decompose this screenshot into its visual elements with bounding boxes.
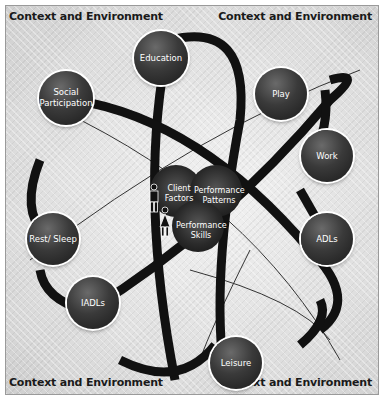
woman-icon [160,207,170,236]
diagram-canvas: Context and Environment Context and Envi… [0,0,381,397]
man-icon [150,184,158,212]
person-icons [0,0,381,397]
